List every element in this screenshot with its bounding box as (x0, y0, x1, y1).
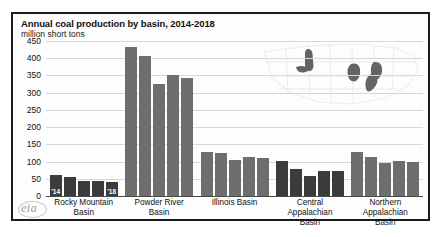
bar (215, 153, 227, 196)
bar-group (272, 41, 347, 196)
bar (304, 176, 316, 196)
y-tick-300: 300 (27, 88, 41, 98)
bar-group (121, 41, 196, 196)
bar (92, 181, 104, 197)
bar (78, 181, 90, 196)
bar-groups: '14'18 (46, 41, 423, 196)
y-tick-50: 50 (32, 174, 41, 184)
bar (64, 177, 76, 196)
y-tick-200: 200 (27, 122, 41, 132)
y-tick-250: 250 (27, 105, 41, 115)
bar (276, 161, 288, 196)
category-label-line: Northern (348, 198, 423, 208)
category-label-line: Appalachian (272, 208, 347, 218)
bar (167, 75, 179, 196)
bar (318, 171, 330, 196)
y-tick-450: 450 (27, 36, 41, 46)
category-label-line: Rocky Mountain (46, 198, 121, 208)
category-label-line: Basin (46, 208, 121, 218)
bar (243, 157, 255, 196)
category-label-line: Basin (348, 218, 423, 228)
category-label: Powder RiverBasin (121, 198, 196, 228)
category-label-line: Powder River (121, 198, 196, 208)
chart-title: Annual coal production by basin, 2014-20… (21, 18, 215, 29)
x-axis-category-labels: Rocky MountainBasinPowder RiverBasinIlli… (46, 198, 423, 228)
bar-group: '14'18 (46, 41, 121, 196)
bar (201, 152, 213, 196)
y-tick-150: 150 (27, 139, 41, 149)
category-label: Rocky MountainBasin (46, 198, 121, 228)
bar (153, 84, 165, 196)
bar: '14 (50, 175, 62, 196)
y-tick-350: 350 (27, 70, 41, 80)
y-axis-labels: 450400350300250200150100500 (13, 41, 44, 196)
bar (229, 160, 241, 196)
category-label-line: Illinois Basin (197, 198, 272, 208)
bar (290, 169, 302, 196)
bar (351, 152, 363, 196)
category-label-line: Central (272, 198, 347, 208)
bar (125, 47, 137, 196)
category-label-line: Basin (272, 218, 347, 228)
bar (181, 78, 193, 196)
plot-area: '14'18 (46, 41, 423, 196)
chart-frame: Annual coal production by basin, 2014-20… (11, 12, 430, 221)
bar-year-label: '18 (106, 189, 118, 196)
category-label-line: Appalachian (348, 208, 423, 218)
bar-group (197, 41, 272, 196)
y-tick-0: 0 (36, 191, 41, 201)
category-label-line: Basin (121, 208, 196, 218)
bar (365, 157, 377, 196)
bar (332, 171, 344, 196)
bar (257, 158, 269, 196)
bar-year-label: '14 (50, 189, 62, 196)
bar: '18 (106, 182, 118, 196)
y-tick-400: 400 (27, 53, 41, 63)
category-label: CentralAppalachianBasin (272, 198, 347, 228)
bar (393, 161, 405, 196)
bar-group (348, 41, 423, 196)
gridline-0 (46, 196, 423, 197)
bar (379, 163, 391, 196)
bar (407, 162, 419, 196)
category-label: Illinois Basin (197, 198, 272, 228)
bar (139, 56, 151, 196)
y-tick-100: 100 (27, 157, 41, 167)
category-label: NorthernAppalachianBasin (348, 198, 423, 228)
eia-logo: eia (21, 201, 37, 216)
